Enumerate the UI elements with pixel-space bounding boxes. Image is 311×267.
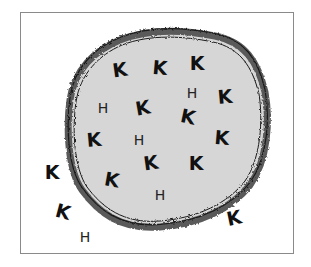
hydrogen-ion-label-inside: H	[98, 101, 109, 115]
potassium-ion-label-inside: K	[111, 60, 128, 81]
potassium-ion-label-inside: K	[152, 58, 168, 78]
hydrogen-ion-label-outside: H	[80, 230, 91, 244]
potassium-ion-label-inside: K	[217, 87, 233, 107]
potassium-ion-label-inside: K	[189, 154, 204, 173]
potassium-ion-label-inside: K	[86, 130, 102, 150]
potassium-ion-label-inside: K	[103, 169, 121, 190]
potassium-ion-label-inside: K	[134, 97, 152, 118]
hydrogen-ion-label-inside: H	[187, 86, 198, 100]
hydrogen-ion-label-inside: H	[155, 188, 166, 202]
cell-membrane	[0, 0, 311, 267]
hydrogen-ion-label-inside: H	[134, 133, 145, 147]
potassium-ion-label-outside: K	[45, 163, 60, 182]
potassium-ion-label-inside: K	[214, 128, 230, 148]
potassium-ion-label-inside: K	[190, 54, 205, 73]
potassium-ion-label-inside: K	[142, 153, 159, 174]
